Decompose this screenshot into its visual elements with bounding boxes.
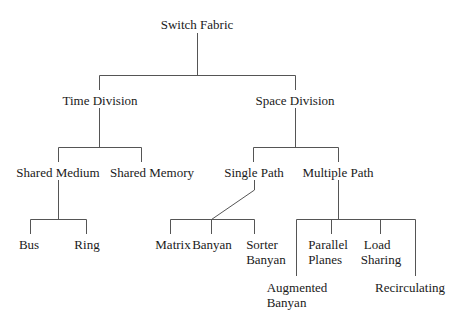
node-space-division: Space Division — [255, 93, 334, 108]
node-shared-medium: Shared Medium — [16, 165, 99, 180]
node-switch-fabric: Switch Fabric — [161, 17, 234, 32]
node-banyan: Banyan — [192, 237, 232, 252]
node-sorter-banyan-line1: Sorter — [246, 237, 286, 252]
node-parallel-planes-line1: Parallel — [308, 237, 348, 252]
node-load-sharing: Load Sharing — [361, 237, 401, 267]
node-load-sharing-line1: Load — [361, 237, 401, 252]
node-recirculating: Recirculating — [375, 280, 445, 295]
node-sorter-banyan-line2: Banyan — [246, 252, 286, 267]
connector-lines — [0, 0, 455, 323]
node-parallel-planes-line2: Planes — [308, 252, 348, 267]
node-multiple-path: Multiple Path — [302, 165, 373, 180]
switch-fabric-taxonomy-diagram: Switch Fabric Time Division Space Divisi… — [0, 0, 455, 323]
node-single-path: Single Path — [224, 165, 284, 180]
node-augmented-banyan-line1: Augmented — [267, 280, 328, 295]
node-parallel-planes: Parallel Planes — [308, 237, 348, 267]
node-ring: Ring — [74, 237, 99, 252]
node-augmented-banyan-line2: Banyan — [267, 295, 328, 310]
node-matrix: Matrix — [155, 237, 190, 252]
node-sorter-banyan: Sorter Banyan — [246, 237, 286, 267]
node-bus: Bus — [19, 237, 39, 252]
node-load-sharing-line2: Sharing — [361, 252, 401, 267]
node-time-division: Time Division — [62, 93, 137, 108]
node-augmented-banyan: Augmented Banyan — [267, 280, 328, 310]
node-shared-memory: Shared Memory — [110, 165, 194, 180]
